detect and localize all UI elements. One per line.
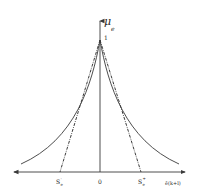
- left-point-sup: -: [61, 176, 63, 181]
- origin-label: 0: [98, 178, 102, 185]
- membership-function-diagram: μ e 1 0 S - e S + e ê(k+l): [0, 0, 198, 196]
- membership-line-dashdot-left: [60, 40, 100, 172]
- membership-line-dashdot-right: [100, 40, 141, 172]
- peak-label: 1: [104, 34, 108, 41]
- right-point-label: S: [138, 178, 142, 185]
- right-point-sub: e: [143, 182, 146, 187]
- left-point-sub: e: [61, 182, 64, 187]
- y-axis-label-sub: e: [111, 25, 115, 32]
- x-axis-label: ê(k+l): [165, 180, 181, 186]
- left-point-label: S: [56, 178, 60, 185]
- right-point-sup: +: [143, 176, 146, 181]
